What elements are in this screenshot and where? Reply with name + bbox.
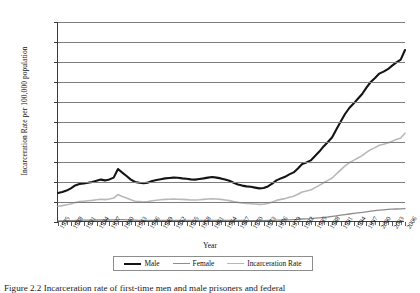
legend-label: Male xyxy=(144,259,159,268)
legend-swatch-icon xyxy=(227,263,244,264)
y-axis-tick xyxy=(54,102,58,103)
y-axis-title: Incarceration Rate per 100,000 populatio… xyxy=(20,11,34,211)
gridline xyxy=(58,42,405,43)
y-axis-tick xyxy=(54,42,58,43)
gridline xyxy=(58,162,405,163)
y-axis-tick xyxy=(54,82,58,83)
series-line-incarceration-rate xyxy=(58,133,405,206)
gridline xyxy=(58,62,405,63)
y-axis-tick xyxy=(54,142,58,143)
legend-swatch-icon xyxy=(124,263,141,265)
x-axis-title: Year xyxy=(0,241,420,250)
figure-caption: Figure 2.2 Incarceration rate of first-t… xyxy=(4,283,420,293)
legend-swatch-icon xyxy=(173,263,190,264)
gridline xyxy=(58,142,405,143)
y-axis-tick xyxy=(54,202,58,203)
legend-item[interactable]: Male xyxy=(124,259,159,268)
legend-item[interactable]: Female xyxy=(173,259,215,268)
y-axis-tick xyxy=(54,182,58,183)
x-axis-tick-label: 2006 xyxy=(405,215,418,230)
gridline xyxy=(58,202,405,203)
chart-legend: MaleFemaleIncarceration Rate xyxy=(113,256,313,271)
legend-label: Female xyxy=(193,259,215,268)
y-axis-tick xyxy=(54,122,58,123)
gridline xyxy=(58,182,405,183)
plot-area: 0100200300400500600700800900100019251928… xyxy=(57,22,404,222)
y-axis-tick xyxy=(54,22,58,23)
gridline xyxy=(58,22,405,23)
legend-label: Incarceration Rate xyxy=(247,259,301,268)
figure-container: Incarceration Rate per 100,000 populatio… xyxy=(0,0,420,293)
gridline xyxy=(58,122,405,123)
y-axis-tick xyxy=(54,62,58,63)
y-axis-tick xyxy=(54,162,58,163)
gridline xyxy=(58,102,405,103)
legend-item[interactable]: Incarceration Rate xyxy=(227,259,301,268)
gridline xyxy=(58,82,405,83)
